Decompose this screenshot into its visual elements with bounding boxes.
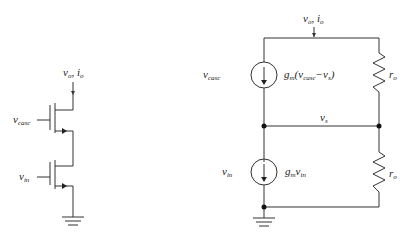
left-output-label: vo, io xyxy=(63,66,84,80)
upper-resistor-label: ro xyxy=(389,68,397,82)
lower-transistor xyxy=(37,160,73,189)
node-dot xyxy=(262,124,267,129)
source-arrow-icon xyxy=(62,128,67,134)
source-arrow-icon xyxy=(62,183,67,189)
ground-icon xyxy=(62,217,84,225)
lower-source-expression: gmvin xyxy=(285,165,306,179)
upper-ctrl-label: vcasc xyxy=(203,68,221,82)
upper-source-expression: gm(vcasc−vs) xyxy=(284,68,335,82)
ground-icon xyxy=(253,218,275,226)
node-dot xyxy=(377,124,382,129)
right-output-label: vo, io xyxy=(303,12,324,26)
vs-node-label: vs xyxy=(320,111,328,125)
current-arrow-icon xyxy=(71,91,75,95)
arrow-down-icon xyxy=(261,80,267,85)
upper-gate-label: vcasc xyxy=(13,113,31,127)
arrow-down-icon xyxy=(261,177,267,182)
right-circuit: vo, io vcasc gm(vcasc−vs) ro vs vin gmvi… xyxy=(203,12,397,226)
node-dot xyxy=(262,205,267,210)
lower-gate-label: vin xyxy=(19,170,30,184)
current-arrow-icon xyxy=(312,33,316,37)
lower-ctrl-label: vin xyxy=(222,165,233,179)
upper-transistor xyxy=(37,103,73,134)
left-circuit: vo, io vcasc vin xyxy=(13,66,84,225)
lower-resistor-label: ro xyxy=(389,167,397,181)
resistor-upper xyxy=(373,53,385,92)
resistor-lower xyxy=(373,152,385,192)
circuit-figure: vo, io vcasc vin xyxy=(0,0,414,248)
